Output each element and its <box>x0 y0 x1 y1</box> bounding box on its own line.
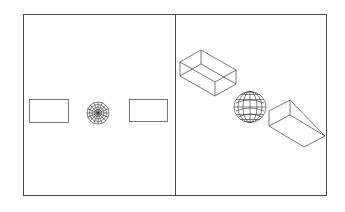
diagram-canvas <box>0 0 345 212</box>
box-plan-view <box>30 100 69 123</box>
sphere-plan-view <box>87 102 109 124</box>
wedge-wireframe <box>269 100 325 147</box>
top-view-viewport <box>30 100 168 125</box>
sphere-wireframe <box>234 92 266 123</box>
wedge-plan-view <box>130 100 168 122</box>
box-wireframe <box>180 50 236 96</box>
isometric-view-viewport <box>180 50 325 147</box>
diagram-svg <box>0 0 345 212</box>
